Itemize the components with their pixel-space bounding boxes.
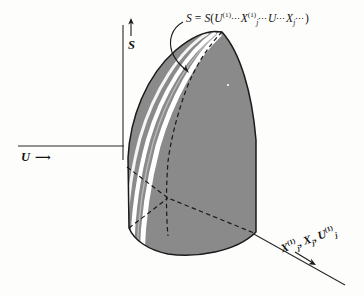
equation-close-paren: ) <box>305 12 309 24</box>
equation-dots-3: ⋯ <box>295 14 305 24</box>
equation-term-1: X <box>241 12 248 24</box>
figure-root: S = S(U(1)⋯X(1)j⋯U⋯Xj⋯) S U⟶ X(1)j, Xj, … <box>0 0 364 297</box>
equation-term-1-sup: (1) <box>248 11 256 19</box>
u-axis-arrow-glyph: ⟶ <box>30 151 51 163</box>
equation-dots-1: ⋯ <box>258 14 268 24</box>
equation-equals: = <box>192 12 205 24</box>
equation-dots-0: ⋯ <box>231 14 241 24</box>
surface-equation-label: S = S(U(1)⋯X(1)j⋯U⋯Xj⋯) <box>186 12 309 24</box>
s-axis-label: S <box>128 38 135 53</box>
u-axis-label: U⟶ <box>21 150 51 165</box>
u-axis-letter: U <box>21 150 30 164</box>
equation-dots-2: ⋯ <box>276 14 286 24</box>
depth-term-2-sup: (1) <box>324 224 334 234</box>
entropy-surface-diagram <box>0 0 364 297</box>
s-axis-arrow-icon <box>128 18 134 36</box>
specular-dot <box>227 84 229 86</box>
equation-term-0-sup: (1) <box>223 11 231 19</box>
equation-term-0: U <box>214 12 222 24</box>
depth-term-0-sup: (1) <box>286 237 296 247</box>
entropy-surface <box>126 31 256 256</box>
